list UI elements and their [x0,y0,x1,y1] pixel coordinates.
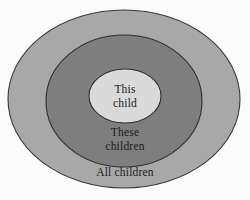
label-this-child-line2: child [0,97,250,111]
diagram-page: This child These children All children [0,0,250,200]
label-these-children: These children [0,126,250,153]
label-all-children-line1: All children [0,166,250,180]
label-this-child: This child [0,83,250,110]
label-this-child-line1: This [0,83,250,97]
label-all-children: All children [0,166,250,180]
label-these-children-line2: children [0,140,250,154]
label-these-children-line1: These [0,126,250,140]
